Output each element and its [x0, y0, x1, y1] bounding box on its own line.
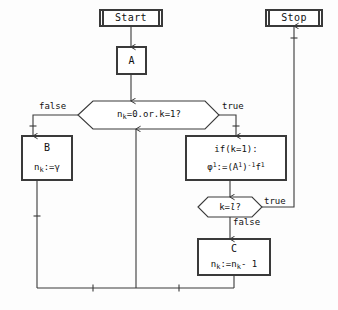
edge-decision1-false-to-b [33, 115, 78, 136]
edge-label-decision2-true: true [264, 196, 286, 206]
edge-label-decision1-false: false [39, 101, 66, 111]
flowchart-graphics [0, 0, 338, 310]
flowchart-canvas: Start Stop A nk=0.or.k=1? B nk:=γ if(k=1… [0, 0, 338, 310]
node-stop-shape [266, 10, 322, 26]
edge-label-decision1-true: true [222, 101, 244, 111]
node-c-shape [198, 239, 270, 275]
node-decision1-shape [78, 101, 219, 129]
node-start-shape [100, 10, 162, 26]
node-b-shape [22, 136, 72, 180]
node-a-shape [117, 47, 146, 74]
edge-label-decision2-false: false [233, 217, 260, 227]
node-ifbox-shape [186, 136, 286, 180]
node-decision2-shape [198, 197, 262, 217]
